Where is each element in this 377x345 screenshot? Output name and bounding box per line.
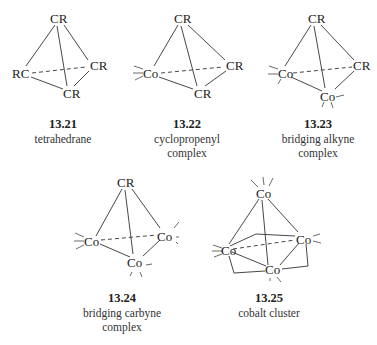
- compound-number: 13.24: [108, 291, 137, 305]
- compound-caption-line1: cyclopropenyl: [154, 133, 220, 146]
- atom-bottom: CR: [194, 86, 212, 101]
- compound-caption-line1: bridging alkyne: [282, 133, 355, 146]
- atom-left: Co: [84, 234, 99, 249]
- atom-left: Co: [278, 66, 293, 81]
- compound-number: 13.25: [255, 291, 283, 305]
- compound-caption: cobalt cluster: [238, 307, 300, 319]
- structure-13-22: Co CR CR CR 13.22 cyclopropenyl complex: [133, 11, 244, 160]
- compound-number: 13.22: [173, 117, 201, 131]
- atom-top: CR: [308, 11, 326, 26]
- compound-caption-line2: complex: [167, 147, 207, 160]
- structure-13-24: Co CR Co Co 13.24 bridging carbyne compl…: [74, 175, 179, 334]
- compound-caption-line1: bridging carbyne: [83, 307, 161, 320]
- atom-top: CR: [117, 175, 135, 190]
- compound-number: 13.21: [49, 117, 77, 131]
- compound-caption-line2: complex: [298, 147, 338, 160]
- figure: CR RC CR CR 13.21 tetrahedrane Co CR CR …: [0, 0, 377, 345]
- atom-right: Co: [296, 232, 311, 247]
- structure-13-21: CR RC CR CR 13.21 tetrahedrane: [12, 11, 108, 145]
- atom-left: RC: [12, 66, 29, 81]
- atom-bottom: CR: [63, 86, 81, 101]
- atom-right: CR: [353, 58, 371, 73]
- atom-top: Co: [256, 186, 271, 201]
- atom-bottom: Co: [265, 262, 280, 277]
- atom-right: CR: [226, 58, 244, 73]
- compound-number: 13.23: [304, 117, 332, 131]
- atom-top: CR: [174, 11, 192, 26]
- compound-caption-line2: complex: [102, 321, 142, 334]
- structure-13-25: Co Co Co Co 13.25 cobalt cluster: [212, 177, 321, 319]
- structures-canvas: CR RC CR CR 13.21 tetrahedrane Co CR CR …: [0, 0, 377, 345]
- atom-bottom: Co: [320, 89, 335, 104]
- atom-right: CR: [90, 58, 108, 73]
- compound-caption: tetrahedrane: [35, 133, 92, 145]
- atom-bottom: Co: [127, 255, 142, 270]
- structure-13-23: Co CR CR Co 13.23 bridging alkyne comple…: [268, 11, 371, 160]
- atom-left: Co: [221, 243, 236, 258]
- atom-top: CR: [50, 11, 68, 26]
- atom-left: Co: [143, 66, 158, 81]
- atom-right: Co: [157, 229, 172, 244]
